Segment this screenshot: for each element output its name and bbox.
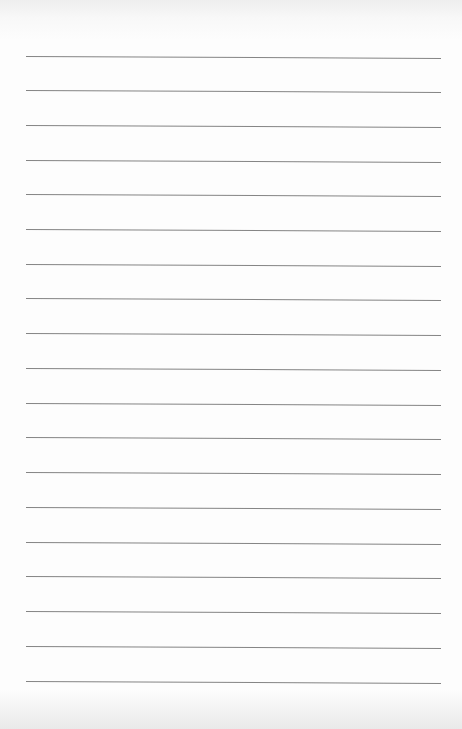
ruled-line bbox=[26, 472, 441, 475]
ruled-line bbox=[26, 160, 441, 163]
ruled-line bbox=[26, 56, 441, 59]
ruled-line bbox=[26, 681, 441, 684]
ruled-line bbox=[26, 507, 441, 510]
ruled-line bbox=[26, 90, 441, 93]
ruled-line bbox=[26, 368, 441, 371]
ruled-line bbox=[26, 298, 441, 301]
ruled-line bbox=[26, 646, 441, 649]
ruled-line bbox=[26, 403, 441, 406]
ruled-line bbox=[26, 125, 441, 128]
ruled-line bbox=[26, 264, 441, 267]
ruled-line bbox=[26, 229, 441, 232]
ruled-line bbox=[26, 194, 441, 197]
lined-paper-page bbox=[0, 0, 462, 729]
ruled-line bbox=[26, 542, 441, 545]
ruled-line bbox=[26, 576, 441, 579]
ruled-line bbox=[26, 437, 441, 440]
ruled-line bbox=[26, 611, 441, 614]
ruled-line bbox=[26, 333, 441, 336]
